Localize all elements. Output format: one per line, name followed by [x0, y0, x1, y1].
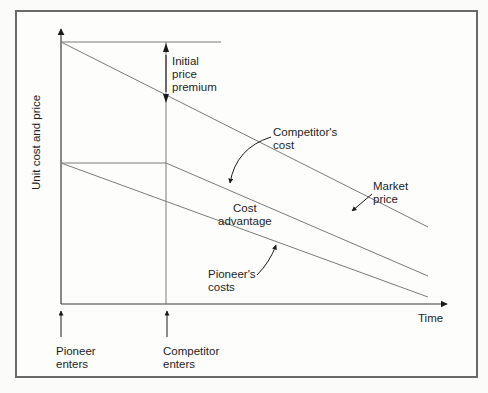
label-line: Market [373, 180, 408, 193]
label-line: cost [273, 139, 337, 152]
label-line: Initial [172, 55, 217, 68]
label-line: Pioneer's [208, 268, 256, 281]
label-line: enters [163, 358, 219, 371]
premium-arrowhead-down [163, 94, 169, 103]
label-line: price [373, 193, 408, 206]
x-axis-label: Time [418, 312, 443, 325]
competitor-enters-label: Competitor enters [163, 345, 219, 371]
label-line: Cost [218, 202, 272, 215]
y-axis-label: Unit cost and price [30, 95, 42, 190]
cost-advantage-label: Cost advantage [218, 202, 272, 228]
label-line: advantage [218, 215, 272, 228]
initial-price-premium-label: Initial price premium [172, 55, 217, 94]
market-price-pointer [352, 194, 372, 211]
label-line: price [172, 68, 217, 81]
label-line: Pioneer [56, 345, 96, 358]
competitors-cost-pointer [230, 137, 271, 183]
competitors-cost-label: Competitor's cost [273, 126, 337, 152]
label-line: Competitor's [273, 126, 337, 139]
label-line: costs [208, 281, 256, 294]
label-line: premium [172, 81, 217, 94]
market-price-label: Market price [373, 180, 408, 206]
premium-arrowhead-up [163, 43, 169, 52]
label-line: Competitor [163, 345, 219, 358]
pioneers-costs-label: Pioneer's costs [208, 268, 256, 294]
pioneer-enters-label: Pioneer enters [56, 345, 96, 371]
pioneers-costs-pointer [257, 245, 276, 275]
label-line: enters [56, 358, 96, 371]
diagram-canvas [0, 0, 488, 393]
